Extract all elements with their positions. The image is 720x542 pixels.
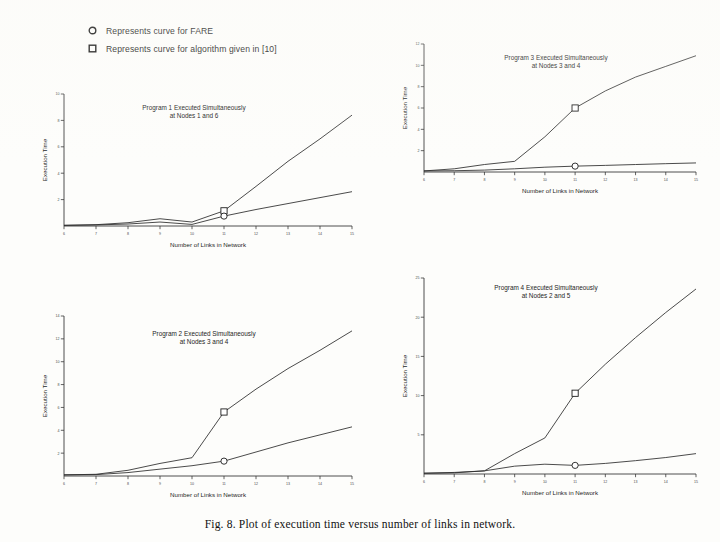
y-axis-tick-label: 4 (58, 172, 60, 176)
x-axis-tick-label: 7 (453, 178, 455, 182)
y-axis-tick-label: 4 (58, 429, 60, 433)
x-axis-tick-label: 7 (95, 232, 97, 236)
x-axis-tick-label: 13 (634, 480, 638, 484)
x-axis-tick-label: 15 (350, 482, 354, 486)
legend-item-label: Represents curve for algorithm given in … (106, 44, 277, 54)
circle-marker-icon (572, 462, 578, 468)
y-axis-tick-label: 10 (416, 394, 420, 398)
y-axis-tick-label: 15 (416, 355, 420, 359)
y-axis-title: Execution Time (401, 354, 408, 397)
y-axis-tick-label: 10 (56, 92, 60, 96)
y-axis-tick-label: 2 (418, 149, 420, 153)
y-axis-tick-label: 12 (416, 42, 420, 46)
x-axis-tick-label: 7 (453, 480, 455, 484)
x-axis-tick-label: 11 (222, 232, 226, 236)
y-axis-tick-label: 12 (56, 337, 60, 341)
x-axis-tick-label: 14 (318, 482, 322, 486)
y-axis-tick-label: 5 (418, 433, 420, 437)
y-axis-title: Execution Time (401, 86, 408, 129)
y-axis-tick-label: 6 (58, 406, 60, 410)
x-axis-tick-label: 15 (694, 480, 698, 484)
x-axis-tick-label: 6 (423, 178, 425, 182)
square-marker-icon (572, 105, 578, 111)
x-axis-tick-label: 8 (127, 482, 129, 486)
y-axis-tick-label: 2 (58, 452, 60, 456)
y-axis-tick-label: 8 (418, 85, 420, 89)
chart-panel-3: 678910111213141524681012Program 3 Execut… (384, 30, 704, 220)
x-axis-tick-label: 12 (254, 482, 258, 486)
x-axis-tick-label: 6 (63, 232, 65, 236)
y-axis-tick-label: 6 (418, 106, 420, 110)
panel-title-line1: Program 3 Executed Simultaneously (504, 54, 608, 62)
data-curve-fare (64, 427, 352, 475)
x-axis-tick-label: 12 (603, 480, 607, 484)
panel-title-line2: at Nodes 3 and 4 (180, 338, 229, 345)
square-marker-icon (86, 42, 99, 55)
chart-panel-4: 6789101112131415510152025Program 4 Execu… (384, 262, 704, 512)
chart-svg-3: 678910111213141524681012Program 3 Execut… (384, 30, 704, 220)
y-axis-tick-label: 10 (416, 64, 420, 68)
chart-svg-1: 6789101112131415246810Program 1 Executed… (22, 76, 362, 266)
x-axis-title: Number of Links in Network (522, 489, 599, 496)
square-marker-icon (572, 390, 578, 396)
data-curve-fare (424, 454, 696, 474)
chart-panel-2: 67891011121314152468101214Program 2 Exec… (22, 298, 362, 513)
x-axis-tick-label: 12 (603, 178, 607, 182)
x-axis-tick-label: 6 (63, 482, 65, 486)
x-axis-tick-label: 15 (350, 232, 354, 236)
y-axis-tick-label: 8 (58, 119, 60, 123)
x-axis-tick-label: 13 (286, 482, 290, 486)
y-axis-tick-label: 2 (58, 198, 60, 202)
circle-marker-icon (221, 458, 227, 464)
chart-panel-1: 6789101112131415246810Program 1 Executed… (22, 76, 362, 266)
y-axis-title: Execution Time (41, 138, 48, 181)
y-axis-tick-label: 10 (56, 360, 60, 364)
panel-title-line2: at Nodes 3 and 4 (532, 62, 581, 69)
y-axis-tick-label: 14 (56, 314, 60, 318)
panel-title-line2: at Nodes 1 and 6 (170, 112, 219, 119)
panel-title-line1: Program 2 Executed Simultaneously (152, 330, 256, 338)
circle-marker-icon (221, 213, 227, 219)
panel-title-line1: Program 4 Executed Simultaneously (494, 284, 598, 292)
x-axis-tick-label: 10 (190, 482, 194, 486)
data-curve-algorithm (64, 115, 352, 225)
x-axis-tick-label: 11 (573, 480, 577, 484)
square-marker-icon (221, 409, 227, 415)
chart-svg-2: 67891011121314152468101214Program 2 Exec… (22, 298, 362, 513)
legend-item-label: Represents curve for FARE (106, 26, 213, 36)
circle-marker-icon (572, 163, 578, 169)
figure-caption: Fig. 8. Plot of execution time versus nu… (0, 518, 720, 530)
x-axis-tick-label: 8 (483, 480, 485, 484)
data-curve-fare (64, 192, 352, 226)
x-axis-tick-label: 8 (483, 178, 485, 182)
x-axis-tick-label: 13 (286, 232, 290, 236)
x-axis-tick-label: 14 (664, 480, 668, 484)
legend-item-fare: Represents curve for FARE (86, 24, 277, 37)
x-axis-tick-label: 11 (573, 178, 577, 182)
y-axis-tick-label: 4 (418, 128, 420, 132)
x-axis-tick-label: 8 (127, 232, 129, 236)
data-curve-algorithm (64, 331, 352, 475)
data-curve-algorithm (424, 56, 696, 171)
x-axis-tick-label: 10 (190, 232, 194, 236)
panel-title-line1: Program 1 Executed Simultaneously (142, 104, 246, 112)
x-axis-tick-label: 10 (543, 178, 547, 182)
panel-title-line2: at Nodes 2 and 5 (522, 292, 571, 299)
x-axis-tick-label: 7 (95, 482, 97, 486)
x-axis-title: Number of Links in Network (170, 241, 247, 248)
x-axis-tick-label: 11 (222, 482, 226, 486)
x-axis-tick-label: 13 (634, 178, 638, 182)
circle-marker-icon (86, 24, 99, 37)
x-axis-tick-label: 9 (514, 480, 516, 484)
x-axis-tick-label: 10 (543, 480, 547, 484)
y-axis-tick-label: 20 (416, 316, 420, 320)
x-axis-title: Number of Links in Network (170, 491, 247, 498)
x-axis-tick-label: 9 (159, 482, 161, 486)
data-curve-algorithm (424, 289, 696, 473)
x-axis-tick-label: 9 (159, 232, 161, 236)
legend-item-algorithm: Represents curve for algorithm given in … (86, 42, 277, 55)
legend: Represents curve for FARE Represents cur… (86, 24, 277, 60)
x-axis-title: Number of Links in Network (522, 187, 599, 194)
y-axis-tick-label: 6 (58, 145, 60, 149)
x-axis-tick-label: 14 (318, 232, 322, 236)
